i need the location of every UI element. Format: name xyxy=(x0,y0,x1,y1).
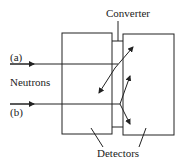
track-a-double-arrow xyxy=(99,47,133,93)
beam-a-label: (a) xyxy=(10,52,22,63)
neutrons-label: Neutrons xyxy=(10,77,50,88)
detectors-pointer-left xyxy=(91,128,103,147)
beam-b-label: (b) xyxy=(10,107,23,118)
converter-label: Converter xyxy=(106,8,150,19)
track-b-arrows xyxy=(120,76,130,124)
detectors-label: Detectors xyxy=(97,148,139,159)
converter xyxy=(112,41,123,127)
detectors-pointer-right xyxy=(139,128,146,147)
